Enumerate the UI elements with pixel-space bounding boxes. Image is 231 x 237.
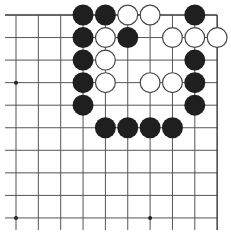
- black-stone: [95, 117, 116, 138]
- black-stone: [73, 72, 94, 93]
- star-point: [14, 81, 18, 85]
- white-stone: [207, 28, 227, 48]
- white-stone: [163, 28, 183, 48]
- black-stone: [73, 50, 94, 71]
- black-stone: [140, 117, 161, 138]
- white-stone: [96, 50, 116, 70]
- black-stone: [162, 117, 183, 138]
- star-point: [14, 216, 18, 220]
- black-stone: [184, 50, 205, 71]
- black-stone: [117, 27, 138, 48]
- white-stone: [96, 28, 116, 48]
- black-stone: [184, 5, 205, 26]
- go-board-diagram: [0, 0, 231, 237]
- black-stone: [184, 72, 205, 93]
- black-stone: [184, 95, 205, 116]
- black-stone: [73, 5, 94, 26]
- white-stone: [140, 5, 160, 25]
- black-stone: [73, 27, 94, 48]
- white-stone: [163, 73, 183, 93]
- white-stone: [185, 28, 205, 48]
- star-point: [148, 216, 152, 220]
- white-stone: [118, 5, 138, 25]
- black-stone: [95, 5, 116, 26]
- white-stone: [96, 73, 116, 93]
- black-stone: [117, 117, 138, 138]
- black-stone: [73, 95, 94, 116]
- white-stone: [140, 73, 160, 93]
